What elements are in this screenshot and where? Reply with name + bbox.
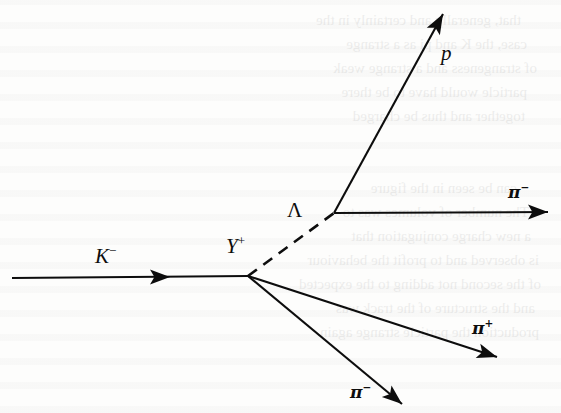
y-symbol: Y [226, 234, 238, 258]
kaon-charge: − [109, 243, 116, 258]
proton-track-arrowhead [427, 14, 443, 35]
y-charge: + [238, 233, 245, 248]
pion-minus-track-arrowhead [382, 385, 402, 404]
label-y-resonance: Y+ [226, 234, 245, 257]
pion-plus-track [248, 276, 497, 357]
pion-minus-track [248, 276, 402, 404]
proton-track [334, 14, 443, 213]
pion-symbol: π [472, 318, 484, 338]
particle-interaction-diagram [0, 0, 561, 413]
kaon-beam-track [12, 276, 248, 278]
kaon-symbol: K [95, 244, 109, 268]
figure-page: that, generally and certainly in thecase… [0, 0, 561, 413]
lambda-symbol: Λ [287, 198, 302, 222]
tracks-group [12, 14, 548, 404]
pion-charge: − [362, 381, 371, 393]
label-proton: p [441, 43, 452, 64]
label-pion-minus-from-lambda: π− [508, 182, 529, 201]
lambda-track [248, 213, 334, 276]
label-pion-minus: π− [350, 382, 371, 401]
pion-symbol: π [350, 382, 362, 402]
pion-charge: + [484, 317, 493, 329]
pion-minus-from-lambda-track [334, 212, 548, 213]
proton-symbol: p [441, 41, 452, 65]
label-lambda: Λ [287, 200, 302, 221]
pion-charge: − [520, 181, 529, 193]
pion-symbol: π [508, 182, 520, 202]
label-pion-plus: π+ [472, 318, 493, 337]
label-kaon-beam: K− [95, 244, 116, 267]
